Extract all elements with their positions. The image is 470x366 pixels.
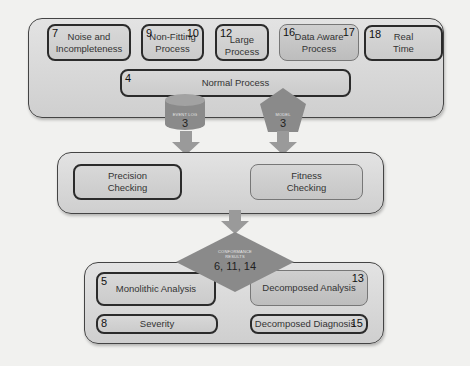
box-data-aware-process: 16 17 Data Aware Process	[279, 24, 359, 61]
box-severity: 8 Severity	[96, 314, 218, 334]
conformance-results-numbers: 6, 11, 14	[176, 261, 294, 272]
box-number: 18	[369, 29, 381, 40]
box-large-process: 12 Large Process	[215, 24, 269, 61]
box-label: Fitness Checking	[287, 170, 327, 194]
box-fitness-checking: Fitness Checking	[250, 164, 363, 200]
box-label: Data Aware Process	[295, 31, 344, 55]
box-decomposed-diagnosis: 15 Decomposed Diagnosis	[250, 314, 368, 334]
box-normal-process: 4 Normal Process	[120, 69, 351, 97]
conformance-results-diamond: CONFORMANCE RESULTS 6, 11, 14	[176, 232, 294, 292]
event-log-number: 3	[163, 118, 207, 129]
box-number: 17	[343, 27, 355, 38]
box-number: 4	[125, 73, 131, 84]
box-number: 12	[220, 28, 232, 39]
box-precision-checking: Precision Checking	[73, 164, 182, 200]
box-number: 8	[101, 318, 107, 329]
box-number: 13	[352, 273, 364, 284]
model-number: 3	[259, 118, 307, 129]
box-label: Noise and Incompleteness	[56, 31, 123, 55]
box-number: 15	[351, 318, 363, 329]
arrow-down-icon	[221, 210, 249, 234]
box-real-time: 18 Real Time	[364, 25, 443, 61]
box-number: 16	[283, 27, 295, 38]
box-number: 9	[146, 28, 152, 39]
box-non-fitting-process: 9 10 Non-Fitting Process	[141, 24, 204, 61]
box-label: Severity	[140, 318, 174, 330]
box-number: 7	[52, 28, 58, 39]
box-label: Precision Checking	[108, 170, 148, 194]
conformance-results-label: CONFORMANCE RESULTS	[176, 249, 294, 259]
event-log-cylinder: EVENT LOG 3	[163, 93, 207, 131]
model-pentagon: MODEL 3	[259, 87, 307, 133]
box-number: 10	[187, 28, 199, 39]
box-label: Decomposed Diagnosis	[255, 318, 363, 330]
box-label: Real Time	[393, 31, 414, 55]
box-noise-incompleteness: 7 Noise and Incompleteness	[47, 24, 131, 61]
box-number: 5	[101, 276, 107, 287]
